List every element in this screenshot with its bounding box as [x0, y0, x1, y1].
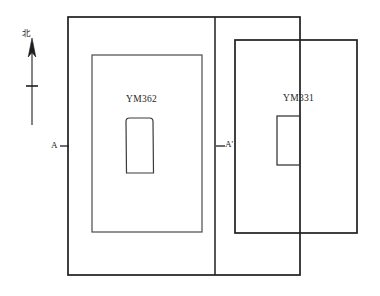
section-label-a-prime: A' [225, 139, 233, 149]
outer-boundary-rect [68, 17, 300, 275]
ym362-pit-rect [92, 55, 202, 232]
ym331-chamber-shape [277, 116, 300, 165]
tomb-label-ym331: YM331 [283, 93, 314, 103]
tomb-label-ym362: YM362 [126, 94, 157, 104]
north-arrow-label: 北 [22, 26, 31, 38]
ym362-chamber-shape [126, 118, 154, 173]
section-label-a: A [51, 140, 58, 150]
tomb-plan-figure: 北 YM362 YM331 A A' [0, 0, 380, 296]
ym331-pit-rect [235, 40, 357, 233]
